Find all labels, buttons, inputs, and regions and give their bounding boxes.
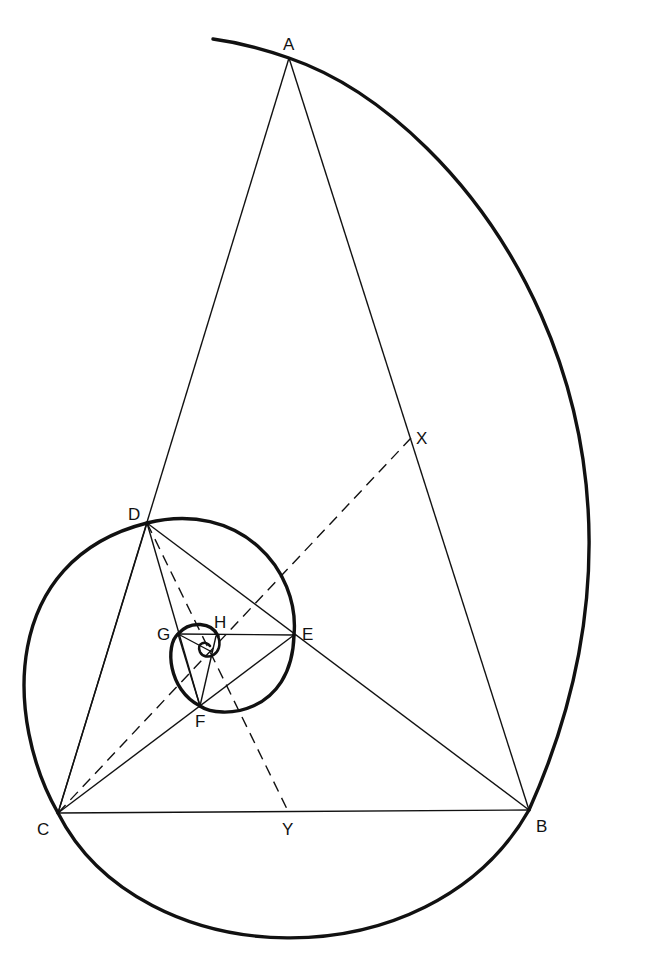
label-D: D (128, 505, 140, 524)
label-G: G (157, 625, 170, 644)
label-B: B (536, 817, 547, 836)
logarithmic-spiral (24, 39, 589, 938)
line-DC (58, 523, 147, 813)
label-F: F (195, 712, 205, 731)
label-H: H (214, 613, 226, 632)
dashed-line-CX (58, 438, 411, 813)
label-X: X (416, 429, 427, 448)
dashed-lines (58, 438, 411, 813)
label-C: C (37, 820, 49, 839)
line-DB (147, 523, 529, 810)
label-E: E (302, 625, 313, 644)
label-A: A (283, 35, 295, 54)
point-labels: A B C D E F G H X Y (37, 35, 547, 839)
label-Y: Y (282, 820, 293, 839)
line-FG (178, 634, 200, 706)
dashed-line-DY (147, 523, 288, 811)
line-BC (58, 810, 529, 813)
line-EG (178, 634, 294, 635)
golden-spiral-diagram: A B C D E F G H X Y (0, 0, 650, 961)
line-CE (58, 635, 294, 813)
line-AB (289, 58, 529, 810)
triangle-lines (58, 58, 529, 813)
